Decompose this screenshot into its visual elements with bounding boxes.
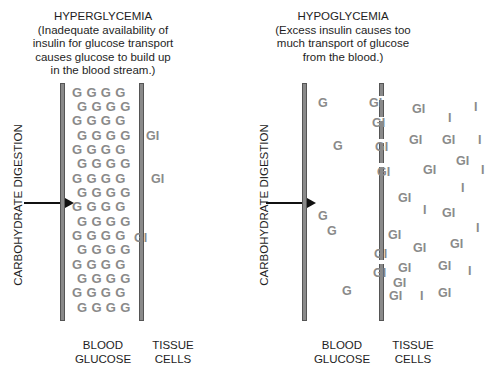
insulin-molecule: I <box>461 182 464 195</box>
glucose-row: GGGG <box>72 200 130 214</box>
glucose-row: GGGG <box>72 229 130 243</box>
glucose-row: GGGG <box>77 243 135 257</box>
glucose-molecule: G <box>333 140 343 153</box>
glucose-insulin-molecule: GI <box>398 192 411 205</box>
glucose-molecule: G <box>342 285 352 298</box>
glucose-insulin-molecule: GI <box>373 267 386 280</box>
blood-vessel-wall <box>302 83 307 321</box>
glucose-insulin-molecule: GI <box>413 242 426 255</box>
insulin-molecule: I <box>478 134 481 147</box>
glucose-row: GGGG <box>72 172 130 186</box>
glucose-insulin-molecule: GI <box>134 232 147 245</box>
carbohydrate-digestion-label: CARBOHYDRATE DIGESTION <box>12 124 24 285</box>
description-line: from the blood.) <box>275 51 411 65</box>
glucose-insulin-molecule: GI <box>369 97 382 110</box>
glucose-insulin-molecule: GI <box>146 130 159 143</box>
blood-vessel-wall <box>60 83 65 321</box>
hypoglycemia-title-block: HYPOGLYCEMIA (Excess insulin causes too … <box>275 10 411 64</box>
glucose-row: GGGG <box>77 100 135 114</box>
insulin-molecule: I <box>468 265 471 278</box>
glucose-molecule: G <box>327 225 337 238</box>
blood-glucose-label: BLOOD GLUCOSE <box>314 339 370 366</box>
description-line: in the blood stream.) <box>33 64 174 78</box>
glucose-insulin-molecule: GI <box>442 207 455 220</box>
panel-title: HYPOGLYCEMIA <box>275 10 411 24</box>
description-line: insulin for glucose transport <box>33 37 174 51</box>
glucose-insulin-molecule: GI <box>388 229 401 242</box>
carbohydrate-digestion-label: CARBOHYDRATE DIGESTION <box>258 124 270 285</box>
glucose-molecule: G <box>318 210 328 223</box>
glucose-row: GGGG <box>77 272 135 286</box>
glucose-insulin-molecule: GI <box>412 103 425 116</box>
glucose-insulin-molecule: GI <box>409 134 422 147</box>
tissue-cell-membrane <box>139 83 144 321</box>
blood-glucose-label: BLOOD GLUCOSE <box>75 339 131 366</box>
glucose-insulin-molecule: GI <box>438 287 451 300</box>
glucose-row: GGGG <box>72 143 130 157</box>
description-line: (Inadequate availability of <box>33 24 174 38</box>
glucose-row: GGGG <box>72 286 130 300</box>
insulin-molecule: I <box>474 101 477 114</box>
glucose-insulin-molecule: GI <box>398 262 411 275</box>
glucose-insulin-molecule: GI <box>438 260 451 273</box>
glucose-row: GGGG <box>72 258 130 272</box>
glucose-row: GGGG <box>72 86 130 100</box>
insulin-molecule: I <box>423 204 426 217</box>
insulin-molecule: I <box>448 112 451 125</box>
tissue-cells-label: TISSUE CELLS <box>392 339 434 366</box>
glucose-insulin-molecule: GI <box>456 155 469 168</box>
glucose-insulin-molecule: GI <box>151 173 164 186</box>
glucose-row: GGGG <box>77 129 135 143</box>
glucose-row: GGGG <box>77 157 135 171</box>
glucose-insulin-molecule: GI <box>450 238 463 251</box>
description-line: causes glucose to build up <box>33 51 174 65</box>
glucose-insulin-molecule: GI <box>389 290 402 303</box>
glucose-insulin-molecule: GI <box>423 164 436 177</box>
tissue-cells-label: TISSUE CELLS <box>152 339 194 366</box>
hyperglycemia-title-block: HYPERGLYCEMIA (Inadequate availability o… <box>33 10 174 78</box>
glucose-insulin-molecule: GI <box>374 248 387 261</box>
arrow-head-icon <box>307 198 316 208</box>
glucose-row: GGGG <box>77 215 135 229</box>
glucose-row: GGGG <box>77 186 135 200</box>
insulin-molecule: I <box>481 164 484 177</box>
panel-title: HYPERGLYCEMIA <box>33 10 174 24</box>
insulin-molecule: I <box>420 290 423 303</box>
description-line: much transport of glucose <box>275 37 411 51</box>
glucose-insulin-molecule: GI <box>442 134 455 147</box>
glucose-molecule: G <box>318 97 328 110</box>
glucose-insulin-molecule: GI <box>375 141 388 154</box>
glucose-row: GGGG <box>77 301 135 315</box>
description-line: (Excess insulin causes too <box>275 24 411 38</box>
glucose-insulin-molecule: GI <box>372 117 385 130</box>
glucose-row: GGGG <box>72 114 130 128</box>
glucose-insulin-molecule: GI <box>377 166 390 179</box>
insulin-molecule: I <box>476 222 479 235</box>
